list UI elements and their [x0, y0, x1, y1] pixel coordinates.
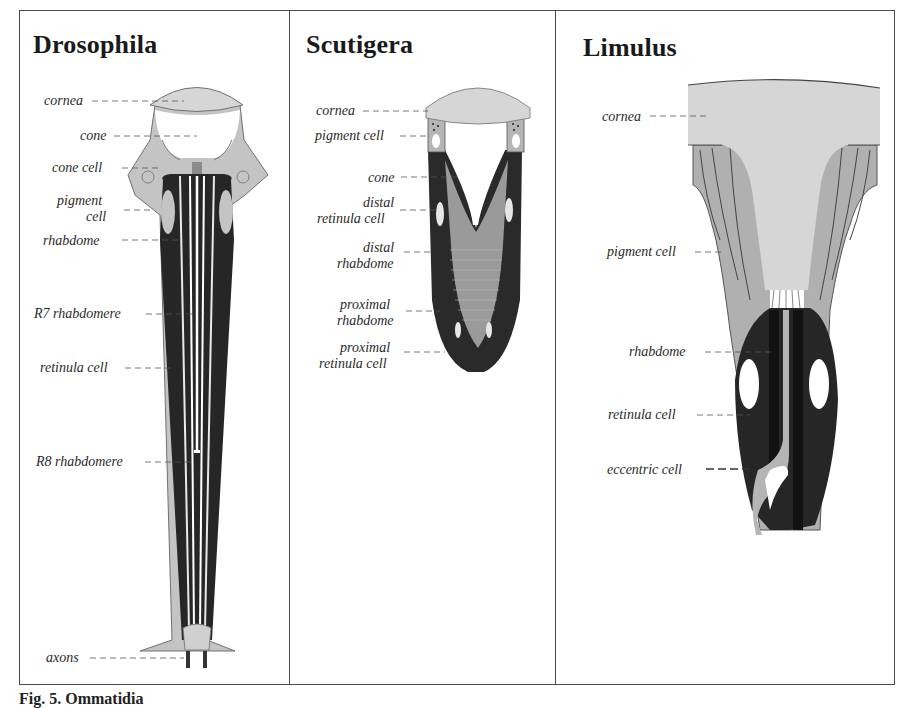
- label-proximal-rhabdome-line2: rhabdome: [337, 313, 394, 328]
- label-distal-retinula-cell-line2: retinula cell: [317, 211, 385, 226]
- label-pigment-cell-line2: cell: [86, 209, 106, 224]
- label-pigment-cell-line1: pigment: [57, 193, 102, 208]
- label-r7-rhabdomere: R7 rhabdomere: [34, 306, 121, 321]
- label-cornea: cornea: [602, 109, 641, 124]
- label-proximal-rhabdome-line1: proximal: [340, 297, 390, 312]
- label-proximal-retinula-cell-line1: proximal: [340, 340, 390, 355]
- label-cone: cone: [368, 170, 394, 185]
- label-cornea: cornea: [316, 103, 355, 118]
- label-distal-retinula-cell-line1: distal: [363, 195, 394, 210]
- label-axons: axons: [46, 650, 79, 665]
- label-proximal-retinula-cell-line2: retinula cell: [319, 356, 387, 371]
- panel-title-limulus: Limulus: [583, 33, 677, 63]
- scutigera-ommatidium: [363, 88, 530, 372]
- label-rhabdome: rhabdome: [43, 233, 100, 248]
- drosophila-ommatidium: [90, 88, 268, 669]
- label-r8-rhabdomere: R8 rhabdomere: [36, 454, 123, 469]
- label-pigment-cell: pigment cell: [315, 128, 384, 143]
- label-eccentric-cell: eccentric cell: [607, 462, 682, 477]
- panel-title-drosophila: Drosophila: [33, 30, 157, 60]
- label-cone: cone: [80, 128, 106, 143]
- limulus-ommatidium: [650, 80, 880, 535]
- label-cornea: cornea: [44, 93, 83, 108]
- label-retinula-cell: retinula cell: [608, 407, 676, 422]
- panel-title-scutigera: Scutigera: [306, 30, 413, 60]
- figure-caption: Fig. 5. Ommatidia: [19, 690, 143, 708]
- label-pigment-cell: pigment cell: [607, 244, 676, 259]
- label-rhabdome: rhabdome: [629, 344, 686, 359]
- label-distal-rhabdome-line1: distal: [363, 240, 394, 255]
- label-distal-rhabdome-line2: rhabdome: [337, 256, 394, 271]
- label-cone-cell: cone cell: [52, 160, 102, 175]
- label-retinula-cell: retinula cell: [40, 360, 108, 375]
